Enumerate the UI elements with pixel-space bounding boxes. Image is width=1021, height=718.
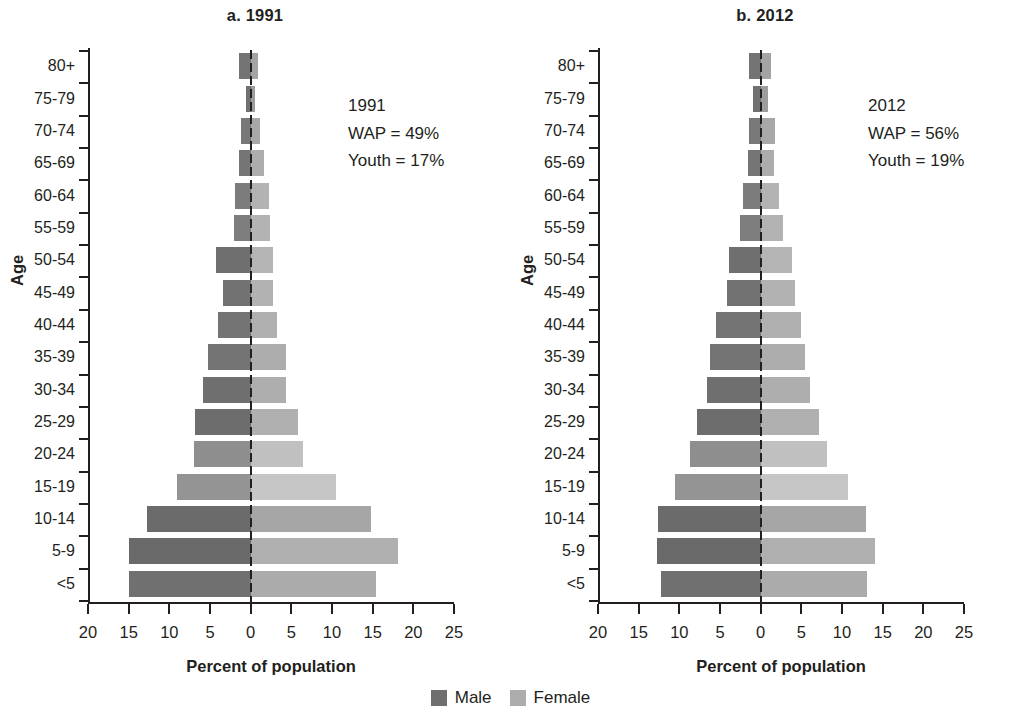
chart-legend: Male Female	[0, 688, 1021, 708]
y-axis-tick	[79, 535, 88, 537]
y-axis-tick-label: 5-9	[52, 542, 75, 560]
pyramid-bar-row	[598, 538, 964, 564]
pyramid-bar-row	[598, 377, 964, 403]
y-axis-tick	[79, 600, 88, 602]
y-axis-tick	[589, 438, 598, 440]
x-axis-tick	[963, 604, 965, 614]
x-axis-tick-label: 15	[119, 623, 137, 642]
x-axis-tick-label: 0	[756, 623, 765, 642]
bar-male	[129, 571, 250, 597]
annotation-2012: 2012 WAP = 56% Youth = 19%	[868, 92, 964, 175]
pyramid-bar-row	[598, 474, 964, 500]
y-axis-tick-label: <5	[57, 575, 75, 593]
bar-female	[251, 183, 270, 209]
bar-female	[761, 409, 820, 435]
y-axis-tick	[589, 50, 598, 52]
y-axis-tick-label: 35-39	[544, 348, 585, 366]
x-axis-tick-label: 5	[715, 623, 724, 642]
pyramid-bar-row	[88, 377, 454, 403]
pyramid-bar-row	[598, 312, 964, 338]
pyramid-bar-row	[88, 506, 454, 532]
bar-female	[761, 506, 867, 532]
legend-item-male: Male	[431, 688, 492, 708]
population-pyramid-figure: a. 1991 Age Percent of population 80+75-…	[0, 0, 1021, 718]
bar-female	[251, 312, 278, 338]
y-axis-tick	[79, 115, 88, 117]
x-axis-tick	[719, 604, 721, 614]
x-axis-tick	[760, 604, 762, 614]
y-axis-tick	[589, 471, 598, 473]
legend-item-female: Female	[510, 688, 591, 708]
bar-male	[740, 215, 761, 241]
pyramid-bar-row	[88, 441, 454, 467]
bar-female	[761, 344, 805, 370]
y-axis-tick-label: 50-54	[34, 251, 75, 269]
x-axis-tick	[597, 604, 599, 614]
y-axis-tick-label: 15-19	[544, 478, 585, 496]
bar-male	[661, 571, 760, 597]
x-axis-tick-label: 20	[589, 623, 607, 642]
bar-male	[177, 474, 250, 500]
annotation-year: 1991	[348, 92, 444, 120]
x-axis-tick	[882, 604, 884, 614]
y-axis-tick-label: 65-69	[544, 154, 585, 172]
y-axis-tick-label: 20-24	[34, 445, 75, 463]
x-axis-tick	[290, 604, 292, 614]
legend-label-female: Female	[534, 688, 591, 708]
bar-female	[761, 183, 779, 209]
panel-title-2012: b. 2012	[510, 6, 1020, 25]
y-axis-tick-label: 30-34	[34, 381, 75, 399]
y-axis-tick	[589, 341, 598, 343]
y-axis-tick	[589, 276, 598, 278]
bar-male	[716, 312, 761, 338]
y-axis-tick	[589, 147, 598, 149]
pyramid-bar-row	[598, 247, 964, 273]
x-axis-tick	[800, 604, 802, 614]
x-axis-line	[598, 602, 964, 604]
y-axis-tick	[79, 82, 88, 84]
y-axis-tick-label: 40-44	[544, 316, 585, 334]
pyramid-bar-row	[88, 344, 454, 370]
y-axis-tick	[79, 471, 88, 473]
y-axis-tick-label: 45-49	[544, 284, 585, 302]
bar-male	[234, 215, 250, 241]
x-axis-tick-label: 0	[246, 623, 255, 642]
x-axis-tick-label: 5	[287, 623, 296, 642]
bar-female	[761, 312, 801, 338]
bar-female	[251, 506, 371, 532]
bar-female	[251, 118, 261, 144]
y-axis-tick-label: 15-19	[34, 478, 75, 496]
x-axis-tick	[168, 604, 170, 614]
x-axis-tick-label: 25	[955, 623, 973, 642]
pyramid-bar-row	[598, 409, 964, 435]
bar-female	[761, 247, 792, 273]
x-axis-tick	[678, 604, 680, 614]
y-axis-tick-label: 75-79	[34, 90, 75, 108]
y-axis-tick	[589, 212, 598, 214]
x-axis-tick	[331, 604, 333, 614]
bar-female	[761, 441, 828, 467]
y-axis-tick	[79, 50, 88, 52]
bar-female	[251, 538, 398, 564]
x-axis-title-1991: Percent of population	[88, 657, 454, 676]
y-axis-tick	[589, 244, 598, 246]
x-axis-tick	[841, 604, 843, 614]
y-axis-tick	[79, 244, 88, 246]
pyramid-bar-row	[88, 53, 454, 79]
y-axis-tick-label: 65-69	[34, 154, 75, 172]
y-axis-tick-label: 10-14	[544, 510, 585, 528]
bar-female	[761, 538, 875, 564]
annotation-youth: Youth = 19%	[868, 147, 964, 175]
bar-female	[251, 53, 258, 79]
pyramid-bar-row	[88, 215, 454, 241]
y-axis-tick-label: 75-79	[544, 90, 585, 108]
bar-male	[729, 247, 761, 273]
y-axis-tick-label: 35-39	[34, 348, 75, 366]
x-axis-tick-label: 10	[670, 623, 688, 642]
pyramid-bar-row	[598, 344, 964, 370]
x-axis-line	[88, 602, 454, 604]
y-axis-tick	[589, 503, 598, 505]
legend-label-male: Male	[455, 688, 492, 708]
bar-male	[658, 506, 760, 532]
bar-male	[697, 409, 760, 435]
